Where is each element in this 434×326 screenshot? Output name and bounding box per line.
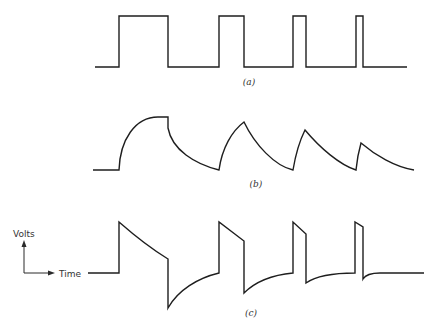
panel-a: (a) <box>95 16 407 87</box>
panel-b: (b) <box>93 117 414 189</box>
waveform-a-pulse-train <box>95 16 407 67</box>
y-axis-label: Volts <box>13 229 35 239</box>
panel-c: (c) <box>88 222 424 318</box>
caption-c: (c) <box>245 308 258 318</box>
x-axis-label: Time <box>58 269 81 279</box>
caption-b: (b) <box>250 179 263 189</box>
waveform-b-integrated <box>93 117 414 170</box>
caption-a: (a) <box>243 77 256 87</box>
arrow-up-icon <box>22 240 27 247</box>
waveform-figure: (a) (b) (c) Volts Time <box>0 0 434 326</box>
axes-indicator: Volts Time <box>13 229 81 279</box>
waveform-c-differentiated <box>88 222 424 308</box>
arrow-right-icon <box>48 271 55 276</box>
